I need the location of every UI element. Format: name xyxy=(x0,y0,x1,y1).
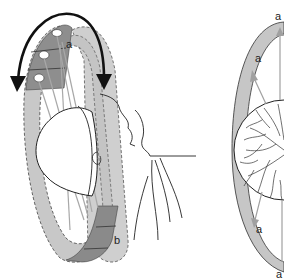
label-a-top: a xyxy=(275,10,282,22)
label-b: b xyxy=(114,234,120,246)
label-a-lower: a xyxy=(256,223,263,235)
neck-lines xyxy=(134,110,196,240)
light-source-icon xyxy=(52,30,62,37)
light-source-icon xyxy=(34,74,44,82)
left-panel: a b xyxy=(10,14,135,262)
right-panel: a a a a xyxy=(232,10,284,279)
label-a-upper: a xyxy=(255,52,262,64)
label-a-bottom: a xyxy=(276,268,283,279)
arrowhead-left xyxy=(10,76,26,92)
light-source-icon xyxy=(39,51,49,59)
perimetry-diagram: a b xyxy=(0,0,284,279)
label-a-left: a xyxy=(66,38,73,50)
